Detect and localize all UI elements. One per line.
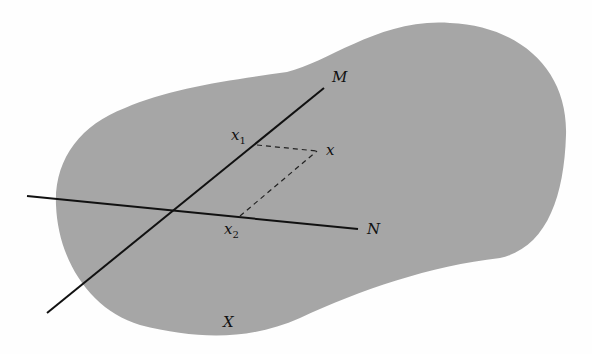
label-region-x: X [222, 313, 235, 331]
diagram-svg: M N x X x1 x2 [0, 0, 592, 354]
diagram-canvas: M N x X x1 x2 [0, 0, 592, 354]
label-m: M [331, 68, 348, 86]
label-n: N [366, 220, 381, 238]
label-x: x [326, 141, 335, 159]
label-x2-sub: 2 [232, 229, 238, 240]
region-x-blob [56, 23, 566, 336]
label-x1-sub: 1 [239, 135, 245, 146]
